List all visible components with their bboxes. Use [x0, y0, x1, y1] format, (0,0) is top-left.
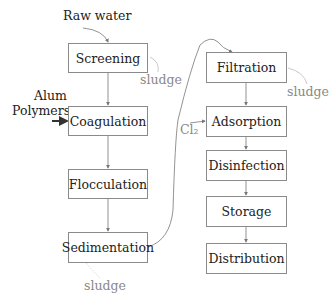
- flocculation-label: Flocculation: [69, 177, 147, 192]
- sedimentation-label: Sedimentation: [62, 240, 154, 255]
- disinfection-box: Disinfection: [206, 150, 287, 181]
- disinfection-label: Disinfection: [208, 158, 284, 173]
- sludge-filtration-label: sludge: [287, 84, 329, 99]
- raw-water-label: Raw water: [63, 8, 131, 23]
- filtration-box: Filtration: [206, 52, 287, 83]
- filtration-label: Filtration: [217, 60, 277, 75]
- distribution-label: Distribution: [208, 251, 284, 266]
- storage-box: Storage: [206, 196, 287, 227]
- adsorption-label: Adsorption: [212, 114, 282, 129]
- screening-box: Screening: [68, 43, 148, 73]
- sludge-sedimentation-label: sludge: [84, 278, 126, 293]
- coagulation-label: Coagulation: [70, 114, 147, 129]
- flocculation-box: Flocculation: [68, 169, 148, 199]
- chlorine-label: Cl₂: [180, 122, 199, 137]
- sedimentation-box: Sedimentation: [68, 232, 148, 263]
- polymers-label: Polymers: [12, 103, 70, 118]
- sludge-screening-label: sludge: [140, 72, 182, 87]
- storage-label: Storage: [222, 204, 272, 219]
- alum-label: Alum: [34, 88, 67, 103]
- screening-label: Screening: [76, 51, 140, 66]
- adsorption-box: Adsorption: [206, 106, 287, 137]
- coagulation-box: Coagulation: [68, 106, 148, 136]
- distribution-box: Distribution: [206, 243, 287, 274]
